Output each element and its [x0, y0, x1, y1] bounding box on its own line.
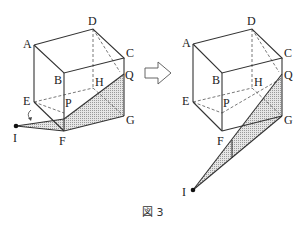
label-p: P	[223, 96, 230, 110]
label-h: H	[95, 75, 104, 89]
right-arrow-icon	[145, 62, 171, 84]
label-a: A	[182, 36, 191, 50]
label-q: Q	[284, 68, 293, 82]
figure-caption: 図 3	[142, 206, 164, 219]
label-h: H	[254, 75, 263, 89]
label-d: D	[88, 14, 97, 28]
label-f: F	[59, 134, 66, 148]
figure-3-diagram: A D C B H Q E P G F I A D	[0, 0, 304, 225]
right-prism	[191, 29, 282, 192]
label-a: A	[23, 37, 32, 51]
label-b: B	[212, 73, 220, 87]
label-e: E	[23, 94, 30, 108]
point-i-dot	[14, 124, 19, 129]
label-b: B	[54, 73, 62, 87]
label-g: G	[284, 113, 293, 127]
label-p: P	[65, 96, 72, 110]
label-c: C	[126, 46, 134, 60]
point-i-dot	[191, 188, 196, 193]
label-q: Q	[125, 68, 134, 82]
label-i: I	[182, 185, 186, 199]
label-c: C	[284, 46, 292, 60]
label-g: G	[126, 113, 135, 127]
label-f: F	[217, 134, 224, 148]
label-e: E	[182, 94, 189, 108]
label-i: I	[13, 131, 17, 145]
label-d: D	[247, 14, 256, 28]
